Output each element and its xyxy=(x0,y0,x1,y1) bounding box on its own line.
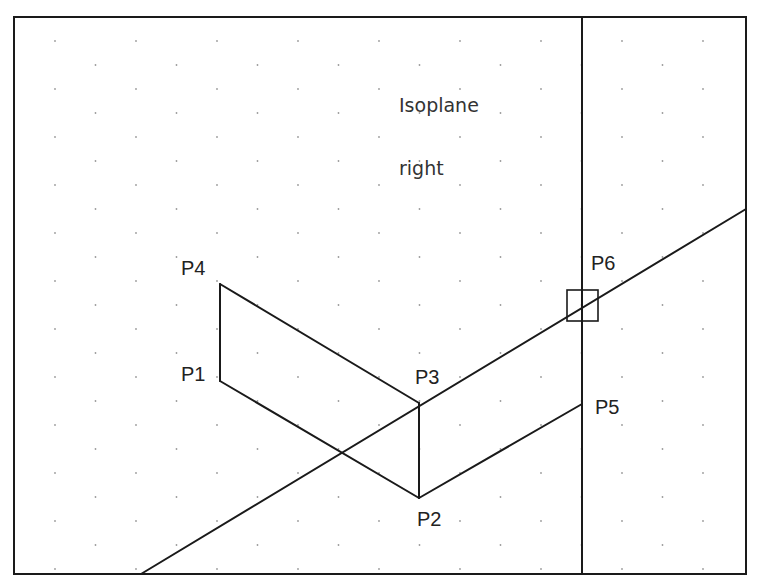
grid-dot xyxy=(135,232,137,234)
grid-dot xyxy=(500,112,502,114)
point-label-p3: P3 xyxy=(415,367,439,387)
grid-dot xyxy=(95,256,97,258)
grid-dot xyxy=(135,520,137,522)
grid-dot xyxy=(378,40,380,42)
grid-dot xyxy=(662,112,664,114)
grid-dot xyxy=(216,232,218,234)
grid-dot xyxy=(621,184,623,186)
grid-dot xyxy=(378,136,380,138)
grid-dot xyxy=(95,304,97,306)
grid-dot xyxy=(54,136,56,138)
point-label-p1: P1 xyxy=(181,364,205,384)
grid-dot xyxy=(95,448,97,450)
grid-dot xyxy=(500,304,502,306)
isoplane-annotation: Isoplane right xyxy=(399,53,479,200)
grid-dot xyxy=(135,184,137,186)
grid-dot xyxy=(419,256,421,258)
grid-dot xyxy=(338,400,340,402)
grid-dot xyxy=(702,40,704,42)
grid-dot xyxy=(297,472,299,474)
grid-dot xyxy=(297,520,299,522)
grid-dot xyxy=(54,472,56,474)
grid-dot xyxy=(338,544,340,546)
grid-dot xyxy=(54,40,56,42)
edge-p1-p2[interactable] xyxy=(220,381,419,498)
grid-dot xyxy=(621,424,623,426)
grid-dot xyxy=(54,568,56,570)
grid-dot xyxy=(419,352,421,354)
grid-dot xyxy=(338,208,340,210)
isometric-grid xyxy=(54,40,704,570)
grid-dot xyxy=(216,328,218,330)
grid-dot xyxy=(662,544,664,546)
grid-dot xyxy=(378,88,380,90)
grid-dot xyxy=(135,40,137,42)
grid-dot xyxy=(216,280,218,282)
grid-dot xyxy=(216,520,218,522)
grid-dot xyxy=(540,376,542,378)
grid-dot xyxy=(338,256,340,258)
grid-dot xyxy=(459,520,461,522)
grid-dot xyxy=(662,496,664,498)
point-label-p6: P6 xyxy=(591,253,615,273)
grid-dot xyxy=(500,64,502,66)
grid-dot xyxy=(419,304,421,306)
grid-dot xyxy=(459,568,461,570)
grid-dot xyxy=(540,328,542,330)
grid-dot xyxy=(297,376,299,378)
grid-dot xyxy=(459,40,461,42)
grid-dot xyxy=(54,424,56,426)
grid-dot xyxy=(459,424,461,426)
drawing-canvas[interactable] xyxy=(0,0,758,585)
grid-dot xyxy=(297,136,299,138)
grid-dot xyxy=(216,568,218,570)
grid-dot xyxy=(135,424,137,426)
construction-line[interactable] xyxy=(141,209,746,574)
grid-dot xyxy=(176,256,178,258)
grid-dot xyxy=(540,184,542,186)
grid-dot xyxy=(95,64,97,66)
grid-dot xyxy=(500,352,502,354)
grid-dot xyxy=(540,40,542,42)
edge-p4-p3[interactable] xyxy=(220,284,419,403)
grid-dot xyxy=(95,544,97,546)
grid-dot xyxy=(621,40,623,42)
grid-dot xyxy=(540,424,542,426)
grid-dot xyxy=(662,448,664,450)
grid-dot xyxy=(459,376,461,378)
grid-dot xyxy=(702,376,704,378)
grid-dot xyxy=(54,88,56,90)
grid-dot xyxy=(419,544,421,546)
grid-dot xyxy=(621,136,623,138)
grid-dot xyxy=(702,472,704,474)
grid-dot xyxy=(338,112,340,114)
grid-dot xyxy=(176,208,178,210)
grid-dot xyxy=(500,496,502,498)
grid-dot xyxy=(257,544,259,546)
grid-dot xyxy=(297,40,299,42)
grid-dot xyxy=(540,520,542,522)
grid-dot xyxy=(338,304,340,306)
grid-dot xyxy=(702,280,704,282)
grid-dot xyxy=(378,184,380,186)
grid-dot xyxy=(176,64,178,66)
grid-dot xyxy=(297,88,299,90)
grid-dot xyxy=(459,328,461,330)
grid-dot xyxy=(216,424,218,426)
edge-p2-p5[interactable] xyxy=(419,404,582,498)
grid-dot xyxy=(459,232,461,234)
grid-dot xyxy=(662,256,664,258)
grid-dot xyxy=(540,472,542,474)
grid-dot xyxy=(702,88,704,90)
grid-dot xyxy=(54,328,56,330)
grid-dot xyxy=(500,400,502,402)
grid-dot xyxy=(500,256,502,258)
grid-dot xyxy=(176,544,178,546)
drawing-segments xyxy=(141,209,746,574)
grid-dot xyxy=(662,352,664,354)
grid-dot xyxy=(216,88,218,90)
grid-dot xyxy=(500,544,502,546)
grid-dot xyxy=(257,160,259,162)
point-label-p2: P2 xyxy=(417,509,441,529)
grid-dot xyxy=(176,448,178,450)
